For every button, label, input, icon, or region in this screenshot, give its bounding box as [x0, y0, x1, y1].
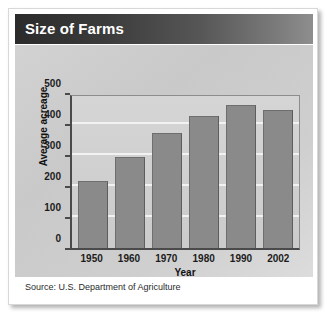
y-tick-label: 100 [31, 202, 61, 213]
y-axis: 0100200300400500 [31, 95, 70, 250]
x-tick-label: 1990 [226, 253, 256, 264]
x-tick-label: 2002 [263, 253, 293, 264]
bar-series [72, 96, 299, 248]
bar [189, 116, 219, 248]
chart-panel: Average acreage 0100200300400500 1950196… [15, 45, 313, 277]
bar [78, 181, 108, 248]
x-tick-label: 1970 [151, 253, 181, 264]
y-tick-label: 200 [31, 171, 61, 182]
source-footer: Source: U.S. Department of Agriculture [15, 277, 313, 300]
bar [226, 105, 256, 248]
x-axis-tick-labels: 195019601970198019902002 [70, 253, 300, 264]
y-tick-label: 0 [31, 233, 61, 244]
page-title: Size of Farms [25, 20, 124, 37]
figure-card: Size of Farms Average acreage 0100200300… [8, 8, 318, 305]
title-bar: Size of Farms [15, 14, 313, 44]
y-tick-label: 500 [31, 78, 61, 89]
bar [115, 157, 145, 248]
x-tick-label: 1980 [189, 253, 219, 264]
x-tick-label: 1950 [77, 253, 107, 264]
x-tick-label: 1960 [114, 253, 144, 264]
y-tick-label: 400 [31, 109, 61, 120]
bar [152, 133, 182, 248]
bar [263, 110, 293, 248]
y-tick-label: 300 [31, 140, 61, 151]
source-note: Source: U.S. Department of Agriculture [25, 282, 181, 292]
plot-area [70, 95, 300, 250]
